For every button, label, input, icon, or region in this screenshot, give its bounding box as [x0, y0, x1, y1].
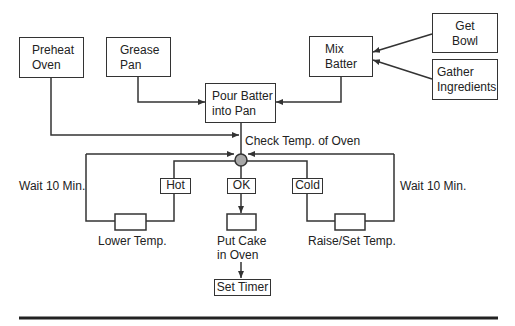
node-gather-ingredients: Gather Ingredients	[432, 59, 498, 100]
node-cold: Cold	[292, 178, 323, 194]
node-set-timer-label: Set Timer	[217, 280, 268, 294]
label-raise-temp: Raise/Set Temp.	[308, 234, 396, 249]
label-check-temp: Check Temp. of Oven	[245, 134, 360, 149]
node-hot: Hot	[160, 178, 191, 194]
raise-temp-box	[335, 214, 365, 230]
label-wait-left: Wait 10 Min.	[19, 179, 85, 194]
label-put-cake-line2: in Oven	[217, 248, 258, 263]
node-get-bowl-line2: Bowl	[433, 34, 497, 49]
label-wait-right: Wait 10 Min.	[400, 179, 466, 194]
node-pour-batter-line2: into Pan	[212, 104, 275, 119]
junction-node	[235, 154, 247, 166]
node-ok-label: OK	[233, 178, 250, 192]
node-hot-label: Hot	[166, 178, 185, 192]
node-mix-batter-line1: Mix	[325, 42, 372, 57]
node-pour-batter-line1: Pour Batter	[212, 89, 275, 104]
node-pour-batter: Pour Batter into Pan	[205, 83, 276, 123]
node-preheat-oven-line1: Preheat	[32, 43, 83, 58]
put-cake-box	[227, 214, 256, 230]
node-ok: OK	[227, 178, 256, 194]
node-cold-label: Cold	[295, 178, 320, 192]
node-grease-pan-line1: Grease	[120, 43, 170, 58]
lower-temp-box	[115, 214, 146, 230]
label-lower-temp: Lower Temp.	[98, 234, 166, 249]
node-mix-batter: Mix Batter	[309, 36, 373, 77]
node-grease-pan-line2: Pan	[120, 58, 170, 73]
node-grease-pan: Grease Pan	[106, 37, 171, 77]
node-preheat-oven: Preheat Oven	[19, 37, 84, 78]
node-set-timer: Set Timer	[214, 279, 271, 296]
node-get-bowl: Get Bowl	[432, 13, 498, 53]
label-put-cake-line1: Put Cake	[217, 234, 266, 249]
node-get-bowl-line1: Get	[433, 19, 497, 34]
node-gather-ingredients-line2: Ingredients	[437, 80, 497, 95]
node-gather-ingredients-line1: Gather	[437, 65, 497, 80]
node-mix-batter-line2: Batter	[325, 57, 372, 72]
node-preheat-oven-line2: Oven	[32, 58, 83, 73]
